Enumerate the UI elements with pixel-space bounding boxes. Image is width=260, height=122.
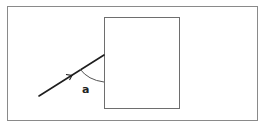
angle-arc — [80, 69, 104, 82]
glass-block — [105, 18, 180, 109]
diagram-canvas: a — [0, 0, 260, 122]
angle-label: a — [82, 83, 89, 96]
